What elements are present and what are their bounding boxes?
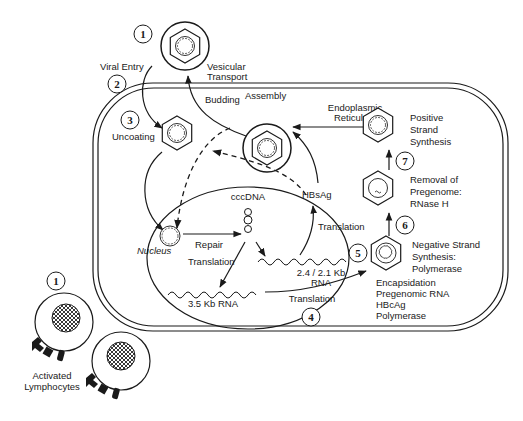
label-polymerase: Polymerase — [376, 310, 426, 321]
label-lymphocytes: Lymphocytes — [24, 381, 80, 392]
label-activated: Activated — [32, 370, 71, 381]
label-translation-bottom: Translation — [289, 293, 336, 304]
arrow-hbsag-to-assembly — [293, 132, 318, 183]
assembly-virion-icon — [243, 124, 291, 172]
label-pregenomic-rna: Pregenomic RNA — [376, 288, 450, 299]
svg-text:4: 4 — [308, 311, 314, 323]
label-encapsidation: Encapsidation — [376, 277, 436, 288]
label-positive: Positive — [410, 112, 443, 123]
label-transport: Transport — [207, 71, 248, 82]
encapsidated-pregenome-icon — [371, 236, 400, 270]
label-negative-synthesis: Synthesis: — [412, 251, 456, 262]
label-viral-entry: Viral Entry — [100, 61, 144, 72]
lymphocyte-icon — [86, 332, 150, 400]
label-synthesis: Synthesis — [410, 136, 451, 147]
label-uncoating: Uncoating — [112, 131, 155, 142]
label-assembly: Assembly — [245, 90, 286, 101]
label-hbsag: HBsAg — [302, 189, 332, 200]
label-nucleus: Nucleus — [137, 245, 172, 256]
svg-text:7: 7 — [402, 155, 408, 167]
arrow-to-24kb — [256, 242, 265, 256]
label-negative-strand: Negative Strand — [412, 239, 480, 250]
step-4-badge: 4 — [302, 308, 320, 326]
step-2-badge: 2 — [108, 75, 126, 93]
arrow-viral-entry — [143, 66, 162, 128]
lymphocyte-icon — [32, 293, 93, 362]
svg-text:1: 1 — [140, 28, 146, 40]
label-translation-right: Translation — [318, 221, 365, 232]
svg-text:2: 2 — [114, 78, 120, 90]
svg-text:5: 5 — [355, 247, 361, 259]
label-hbcag: HBcAg — [376, 299, 406, 310]
label-cccdna: cccDNA — [231, 191, 266, 202]
rnase-h-capsid-icon — [363, 171, 392, 205]
label-removal: Removal of — [410, 174, 458, 185]
step-1-lymphocyte-badge: 1 — [47, 272, 65, 290]
rna-2-4kb-wave — [258, 259, 346, 265]
step-7-badge: 7 — [396, 152, 414, 170]
label-strand: Strand — [410, 124, 438, 135]
label-rnase-h: RNase H — [410, 198, 449, 209]
arrow-budding — [188, 76, 246, 136]
label-budding: Budding — [205, 94, 240, 105]
rcdna-icon — [160, 226, 180, 246]
label-pregenome: Pregenome: — [410, 186, 462, 197]
label-repair: Repair — [195, 239, 223, 250]
hbv-replication-diagram: 1 Viral Entry 2 Vesicular Transport 3 Un… — [0, 0, 523, 421]
arrow-translation-to-hbsag — [300, 206, 313, 255]
label-translation-left: Translation — [188, 256, 235, 267]
step-1-badge: 1 — [134, 25, 152, 43]
label-negative-polymerase: Polymerase — [412, 263, 462, 274]
nucleocapsid-icon — [162, 116, 191, 150]
step-5-badge: 5 — [349, 244, 367, 262]
step-6-badge: 6 — [396, 216, 414, 234]
svg-text:3: 3 — [127, 114, 133, 126]
virion-icon — [161, 22, 209, 70]
svg-text:1: 1 — [53, 275, 59, 287]
cccdna-icon — [244, 209, 252, 233]
label-rna-2-4kb-rna: RNA — [311, 277, 332, 288]
svg-text:6: 6 — [402, 219, 408, 231]
arrow-to-nucleus — [145, 152, 163, 230]
label-rna-3-5kb: 3.5 Kb RNA — [188, 298, 239, 309]
step-3-badge: 3 — [121, 111, 139, 129]
